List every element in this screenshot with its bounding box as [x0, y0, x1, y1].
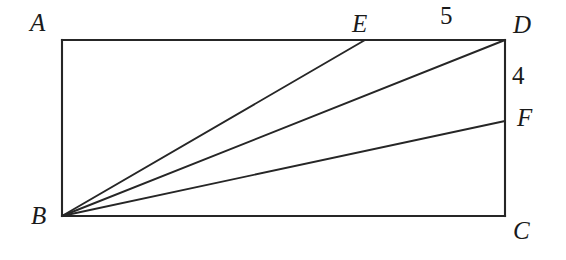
- measure-label-ed: 5: [440, 3, 453, 28]
- segment-BD: [62, 40, 505, 216]
- vertex-label-e: E: [352, 11, 367, 36]
- cevians-from-b: [62, 40, 505, 216]
- vertex-label-c: C: [513, 218, 530, 243]
- vertex-label-a: A: [30, 10, 45, 35]
- segment-BE: [62, 40, 365, 216]
- geometry-figure: A B C D E F 5 4: [0, 0, 566, 260]
- vertex-label-b: B: [31, 203, 46, 228]
- measure-label-df: 4: [512, 63, 525, 88]
- segment-BF: [62, 121, 505, 216]
- vertex-label-f: F: [517, 105, 532, 130]
- vertex-label-d: D: [513, 12, 531, 37]
- figure-canvas: [0, 0, 566, 260]
